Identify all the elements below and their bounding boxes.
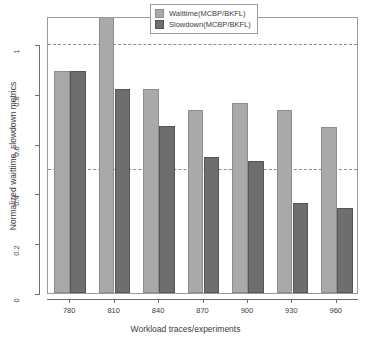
x-tick-780 <box>69 299 70 303</box>
bar-840-slowdown <box>159 126 175 293</box>
y-tick-0.2 <box>35 244 39 245</box>
y-axis-line <box>39 45 40 295</box>
x-tick-label-960: 960 <box>330 306 343 315</box>
x-tick-810 <box>114 299 115 303</box>
bar-900-slowdown <box>248 161 264 293</box>
x-tick-label-870: 870 <box>196 306 209 315</box>
x-tick-960 <box>336 299 337 303</box>
bar-840-waittime <box>143 89 159 293</box>
x-tick-label-930: 930 <box>285 306 298 315</box>
legend-swatch-icon-slowdown <box>155 20 164 29</box>
x-tick-label-900: 900 <box>241 306 254 315</box>
bar-870-slowdown <box>204 157 220 293</box>
chart-figure: Waittime(MCBP/BKFL) Slowdown(MCBP/BKFL) … <box>0 0 371 347</box>
bar-780-slowdown <box>70 71 86 293</box>
x-tick-label-780: 780 <box>63 306 76 315</box>
bar-960-waittime <box>321 127 337 293</box>
x-tick-label-810: 810 <box>107 306 120 315</box>
x-axis-title: Workload traces/experiments <box>0 324 371 334</box>
chart-legend: Waittime(MCBP/BKFL) Slowdown(MCBP/BKFL) <box>150 4 258 34</box>
bar-960-slowdown <box>337 208 353 293</box>
y-tick-0.8 <box>35 95 39 96</box>
y-tick-label-0: 0 <box>11 298 20 302</box>
y-axis-title-wrapper: Normalized waittime, slowdown metrics <box>6 17 20 294</box>
bar-930-slowdown <box>293 203 309 293</box>
legend-swatch-icon-waittime <box>155 9 164 18</box>
legend-label-waittime: Waittime(MCBP/BKFL) <box>169 8 245 19</box>
y-tick-0.6 <box>35 145 39 146</box>
legend-item-waittime[interactable]: Waittime(MCBP/BKFL) <box>155 8 251 19</box>
plot-area <box>47 17 358 294</box>
bar-870-waittime <box>188 110 204 293</box>
y-axis-title: Normalized waittime, slowdown metrics <box>8 81 18 229</box>
bar-810-waittime <box>99 17 115 293</box>
x-tick-930 <box>291 299 292 303</box>
x-tick-900 <box>247 299 248 303</box>
bar-930-waittime <box>277 110 293 293</box>
y-tick-1 <box>35 45 39 46</box>
bars-layer <box>48 18 357 293</box>
bar-900-waittime <box>232 103 248 293</box>
x-tick-870 <box>203 299 204 303</box>
bar-780-waittime <box>54 71 70 293</box>
legend-item-slowdown[interactable]: Slowdown(MCBP/BKFL) <box>155 19 251 30</box>
bar-810-slowdown <box>115 89 131 293</box>
y-tick-0 <box>35 294 39 295</box>
y-tick-0.4 <box>35 194 39 195</box>
x-tick-840 <box>158 299 159 303</box>
x-tick-label-840: 840 <box>152 306 165 315</box>
legend-label-slowdown: Slowdown(MCBP/BKFL) <box>169 19 251 30</box>
